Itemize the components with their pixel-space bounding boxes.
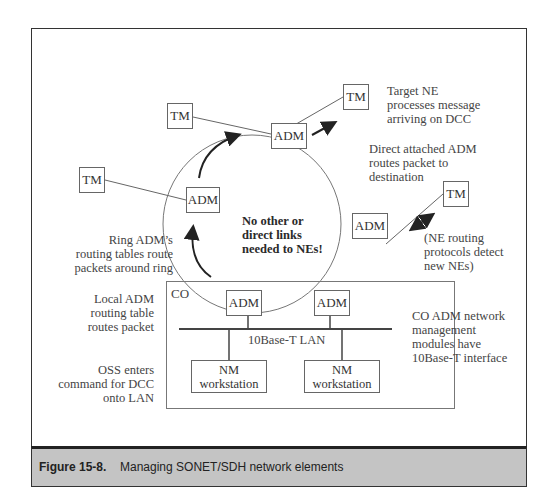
annotation-line: management — [412, 323, 507, 337]
annotation-line: modules have — [412, 337, 507, 351]
annotation-line: routing tables route — [60, 247, 173, 261]
tm-node-top-right: TM — [343, 84, 369, 110]
annotation-local-adm: Local ADM routing table routes packet — [50, 292, 154, 334]
annotation-line: routes packet to — [369, 156, 477, 170]
annotation-line: protocols detect — [424, 245, 504, 259]
annotation-line: Target NE — [387, 84, 480, 98]
arrow-to-target — [312, 123, 334, 135]
center-note-line: No other or — [242, 214, 323, 228]
annotation-line: new NEs) — [424, 259, 504, 273]
annotation-target-ne: Target NE processes message arriving on … — [387, 84, 480, 126]
tm-node-left: TM — [79, 167, 105, 193]
annotation-line: routing table — [50, 306, 154, 320]
annotation-line: command for DCC — [50, 377, 154, 391]
annotation-line: 10Base-T interface — [412, 351, 507, 365]
arrow-bidirectional — [412, 215, 432, 229]
annotation-line: Ring ADM’s — [60, 233, 173, 247]
annotation-ring-adm: Ring ADM’s routing tables route packets … — [60, 233, 173, 275]
tm-node-right: TM — [443, 181, 469, 207]
link-tm-left — [105, 180, 186, 200]
center-note-line: direct links — [242, 228, 323, 242]
adm-node-co-right: ADM — [314, 290, 350, 316]
annotation-line: destination — [369, 170, 477, 184]
nm-workstation-left: NM workstation — [191, 360, 267, 393]
annotation-line: packets around ring — [60, 261, 173, 275]
lan-label: 10Base-T LAN — [248, 333, 325, 347]
adm-node-right: ADM — [352, 213, 388, 239]
figure-number: Figure 15-8. — [39, 460, 106, 474]
annotation-line: onto LAN — [50, 391, 154, 405]
adm-node-top: ADM — [271, 123, 307, 149]
co-label: CO — [171, 287, 189, 301]
annotation-line: Direct attached ADM — [369, 142, 477, 156]
tm-node-top-left: TM — [167, 103, 193, 129]
annotation-oss: OSS enters command for DCC onto LAN — [50, 363, 154, 405]
arrow-ring-from-co — [192, 228, 211, 277]
center-note-line: needed to NEs! — [242, 242, 323, 256]
annotation-line: CO ADM network — [412, 309, 507, 323]
nm-workstation-right: NM workstation — [304, 360, 380, 393]
nm-workstation-right-label: NM workstation — [312, 363, 371, 391]
nm-workstation-left-label: NM workstation — [199, 363, 258, 391]
annotation-line: processes message — [387, 98, 480, 112]
annotation-line: OSS enters — [50, 363, 154, 377]
figure-title: Managing SONET/SDH network elements — [120, 460, 343, 474]
annotation-ne-routing: (NE routing protocols detect new NEs) — [424, 231, 504, 273]
annotation-line: routes packet — [50, 320, 154, 334]
annotation-line: arriving on DCC — [387, 112, 480, 126]
annotation-direct-attached: Direct attached ADM routes packet to des… — [369, 142, 477, 184]
annotation-co-adm: CO ADM network management modules have 1… — [412, 309, 507, 365]
figure-caption: Figure 15-8. Managing SONET/SDH network … — [31, 446, 527, 487]
link-tm-top-left — [193, 117, 271, 134]
annotation-line: (NE routing — [424, 231, 504, 245]
adm-node-co-left: ADM — [226, 290, 262, 316]
annotation-line: Local ADM — [50, 292, 154, 306]
center-note: No other or direct links needed to NEs! — [242, 214, 323, 256]
adm-node-left: ADM — [186, 187, 220, 213]
